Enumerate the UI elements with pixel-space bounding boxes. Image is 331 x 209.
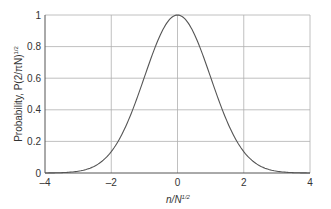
x-axis-label: n/N1/2 [166, 194, 191, 205]
y-axis-label: Probability, P(2/πN)1/2 [13, 46, 24, 142]
y-tick-label: 0 [35, 168, 41, 179]
x-tick-label: –2 [106, 177, 118, 188]
y-tick-label: 0.4 [27, 104, 41, 115]
x-tick-label: 2 [241, 177, 247, 188]
x-tick-label: –4 [39, 177, 51, 188]
x-tick-label: 0 [175, 177, 181, 188]
y-tick-label: 0.2 [27, 136, 41, 147]
x-tick-label: 4 [307, 177, 313, 188]
y-tick-labels: 00.20.40.60.81 [27, 10, 41, 179]
y-tick-label: 0.6 [27, 73, 41, 84]
y-tick-label: 0.8 [27, 41, 41, 52]
grid-lines [45, 15, 310, 173]
gaussian-chart: –4–2024 00.20.40.60.81 n/N1/2 Probabilit… [0, 0, 331, 209]
x-tick-labels: –4–2024 [39, 177, 313, 188]
y-tick-label: 1 [35, 10, 41, 21]
